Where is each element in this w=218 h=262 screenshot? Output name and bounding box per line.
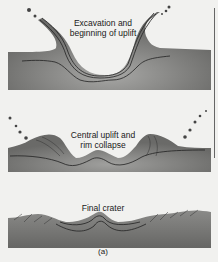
stage-2-label: Central uplift and rim collapse: [0, 130, 212, 150]
figure-caption: (a): [0, 247, 206, 256]
stage-3-label: Final crater: [0, 203, 212, 213]
stage-2-label-line-2: rim collapse: [0, 140, 212, 150]
stage-1-label: Excavation and beginning of uplift: [0, 18, 212, 38]
stage-1-label-line-2: beginning of uplift: [0, 28, 212, 38]
page-edge-divider: [214, 8, 215, 158]
stage-1-label-line-1: Excavation and: [0, 18, 212, 28]
stage-3-label-line-1: Final crater: [0, 203, 212, 213]
stage-2-label-line-1: Central uplift and: [0, 130, 212, 140]
